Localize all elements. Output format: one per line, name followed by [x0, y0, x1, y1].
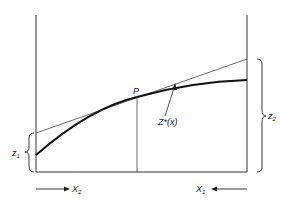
curve-label: Z*(x)	[157, 117, 178, 127]
curve-z-star	[36, 80, 247, 155]
arrow-left-icon	[211, 187, 217, 192]
z2-brace	[257, 59, 266, 172]
x1-label: X1	[195, 184, 205, 195]
z1-label: z1	[11, 148, 20, 159]
z1-brace	[25, 133, 34, 172]
arrow-right-icon	[64, 187, 70, 192]
point-p-label: P	[133, 86, 139, 96]
z2-label: z2	[267, 111, 277, 122]
x2-label: X2	[71, 184, 82, 195]
edgeworth-diagram: P Z*(x) z1 z2 X2 X1	[0, 0, 290, 205]
